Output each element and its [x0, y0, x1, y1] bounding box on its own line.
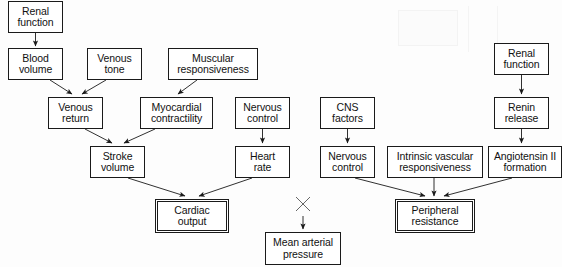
node-cardiac-output[interactable]: Cardiac output	[155, 199, 229, 233]
scan-artifact-line	[468, 6, 469, 52]
node-label: Blood volume	[17, 53, 54, 76]
connector-layer	[0, 0, 562, 267]
edge-angiotensin-to-peripheral-resistance	[444, 178, 512, 196]
node-stroke-volume[interactable]: Stroke volume	[90, 146, 145, 178]
node-renin-release[interactable]: Renin release	[494, 97, 549, 129]
node-label: Nervous control	[241, 102, 283, 125]
edge-blood-volume-to-venous-return	[50, 80, 72, 94]
node-label: Intrinsic vascular responsiveness	[395, 151, 475, 174]
edge-heart-rate-to-cardiac-output	[199, 178, 252, 196]
edge-venous-return-to-stroke-volume	[85, 129, 112, 143]
diagram-canvas: Renal function Blood volume Venous tone …	[0, 0, 562, 267]
node-nervous-control-resistance[interactable]: Nervous control	[320, 146, 375, 178]
edge-stroke-volume-to-cardiac-output	[128, 178, 185, 196]
node-myocardial-contractility[interactable]: Myocardial contractility	[140, 97, 213, 129]
node-peripheral-resistance[interactable]: Peripheral resistance	[395, 199, 475, 233]
edge-muscular-to-myocardial	[178, 80, 197, 94]
edge-venous-tone-to-venous-return	[82, 80, 106, 94]
edge-nervous-control-to-peripheral-resistance	[355, 178, 425, 196]
node-renal-function-right[interactable]: Renal function	[494, 43, 549, 75]
node-nervous-control-cardiac[interactable]: Nervous control	[235, 97, 290, 129]
node-angiotensin-ii-formation[interactable]: Angiotensin II formation	[488, 146, 562, 178]
node-label: Renal function	[16, 6, 56, 29]
node-label: Cardiac output	[172, 205, 211, 228]
node-label: Heart rate	[248, 151, 277, 174]
node-label: Stroke volume	[99, 151, 136, 174]
node-label: Venous return	[56, 102, 94, 125]
x-cross-icon	[296, 197, 310, 211]
node-label: Mean arterial pressure	[271, 237, 335, 260]
node-intrinsic-vascular-responsiveness[interactable]: Intrinsic vascular responsiveness	[387, 146, 483, 178]
node-blood-volume[interactable]: Blood volume	[8, 48, 63, 80]
node-renal-function-left[interactable]: Renal function	[8, 1, 63, 33]
node-label: Muscular responsiveness	[175, 53, 251, 76]
node-label: Nervous control	[326, 151, 368, 174]
edge-myocardial-to-stroke-volume	[124, 129, 155, 143]
node-venous-tone[interactable]: Venous tone	[87, 48, 142, 80]
scan-artifact-line-2	[497, 6, 498, 46]
node-muscular-responsiveness[interactable]: Muscular responsiveness	[168, 48, 258, 80]
node-label: Renin release	[503, 102, 541, 125]
node-label: Peripheral resistance	[410, 205, 461, 228]
node-label: CNS factors	[330, 102, 365, 125]
node-cns-factors[interactable]: CNS factors	[320, 97, 375, 129]
node-label: Angiotensin II formation	[492, 151, 558, 174]
scan-artifact-box	[398, 10, 458, 46]
node-label: Myocardial contractility	[149, 102, 204, 125]
node-venous-return[interactable]: Venous return	[48, 97, 103, 129]
node-label: Renal function	[502, 48, 542, 71]
node-label: Venous tone	[95, 53, 133, 76]
node-heart-rate[interactable]: Heart rate	[235, 146, 290, 178]
node-mean-arterial-pressure[interactable]: Mean arterial pressure	[265, 232, 341, 265]
